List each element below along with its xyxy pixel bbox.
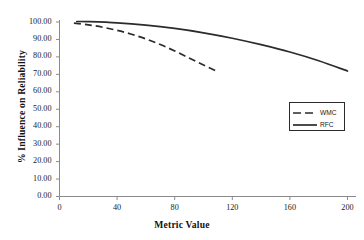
x-tick-label: 160 [275, 203, 305, 212]
x-tick-label: 80 [160, 203, 190, 212]
legend-item-wmc: WMC [293, 107, 345, 118]
x-tick-label: 200 [333, 203, 363, 212]
x-axis-ticks [60, 197, 348, 201]
x-tick-label: 40 [102, 203, 132, 212]
x-tick-label: 0 [45, 203, 75, 212]
legend-swatch-solid [293, 122, 317, 128]
legend-label-wmc: WMC [320, 109, 336, 116]
y-axis-title: % Influence on Reliability [16, 17, 27, 197]
series-line-wmc [74, 23, 218, 72]
x-axis-title: Metric Value [0, 219, 364, 230]
x-tick-label: 120 [217, 203, 247, 212]
reliability-influence-chart: 0.0010.0020.0030.0040.0050.0060.0070.008… [0, 0, 364, 240]
series-line-rfc [77, 21, 348, 71]
y-axis-ticks [56, 22, 60, 197]
legend-item-rfc: RFC [293, 119, 345, 130]
chart-legend: WMC RFC [289, 102, 345, 131]
legend-swatch-dashed [293, 110, 317, 116]
legend-label-rfc: RFC [320, 121, 334, 128]
